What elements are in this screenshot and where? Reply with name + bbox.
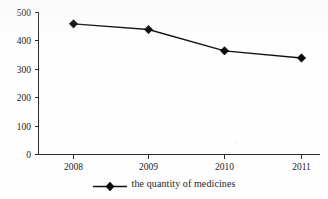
x-tick-label-2010: 2010 <box>215 162 234 172</box>
y-tick-label-400: 400 <box>17 36 32 46</box>
data-point-2009 <box>144 25 152 33</box>
x-tick-label-2009: 2009 <box>139 162 158 172</box>
x-tick-label-2008: 2008 <box>64 162 83 172</box>
data-series-the-quantity-of-medicines <box>69 20 305 62</box>
y-axis-tick-labels: 500 400 300 200 100 0 <box>17 8 32 160</box>
x-axis-ticks <box>74 155 302 159</box>
plot-area: 500 400 300 200 100 0 2008 2009 2010 201… <box>0 0 328 199</box>
legend-swatch-the-quantity-of-medicines <box>93 178 127 189</box>
series-line-path <box>74 24 302 58</box>
data-point-2008 <box>69 20 77 28</box>
y-tick-label-500: 500 <box>17 8 32 18</box>
y-tick-label-0: 0 <box>26 150 31 160</box>
data-point-2011 <box>297 54 305 62</box>
line-chart: 500 400 300 200 100 0 2008 2009 2010 201… <box>0 0 328 199</box>
x-tick-label-2011: 2011 <box>292 162 311 172</box>
legend-label-the-quantity-of-medicines: the quantity of medicines <box>132 178 236 189</box>
y-axis-ticks <box>35 13 39 155</box>
data-point-2010 <box>220 47 228 55</box>
y-tick-label-100: 100 <box>17 122 32 132</box>
y-tick-label-200: 200 <box>17 93 32 103</box>
x-axis-tick-labels: 2008 2009 2010 2011 <box>64 162 311 172</box>
chart-legend: the quantity of medicines <box>0 178 328 189</box>
diamond-marker-icon <box>93 181 127 192</box>
y-tick-label-300: 300 <box>17 65 32 75</box>
